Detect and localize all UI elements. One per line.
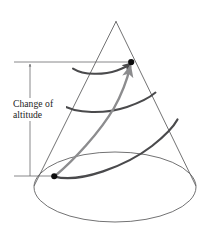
start-point-marker: [51, 173, 57, 179]
cone-base-ellipse: [34, 152, 196, 222]
middle-contour-arc: [61, 93, 156, 113]
end-point-marker: [128, 59, 134, 65]
upper-contour-arc: [73, 63, 131, 73]
lower-contour-arc: [55, 120, 178, 179]
cone-altitude-diagram: Change of altitude: [0, 0, 209, 235]
cone-outline-group: [34, 22, 196, 223]
change-of-altitude-label: Change of altitude: [13, 98, 66, 121]
